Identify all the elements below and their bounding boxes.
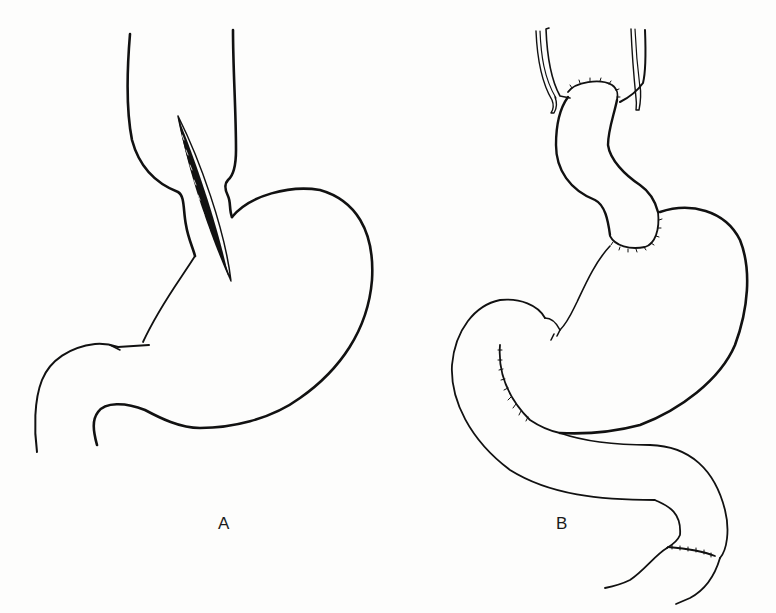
duodenum-upper-edge	[35, 344, 149, 452]
panel-a-drawing	[35, 30, 372, 452]
lower-suture-ticks	[611, 219, 662, 252]
left-tube-inner	[546, 28, 570, 98]
figure-canvas: A B	[0, 0, 776, 613]
angular-notch	[545, 318, 560, 340]
panel-label-a: A	[218, 515, 229, 532]
stomach-greater-curvature	[94, 189, 373, 445]
anatomical-diagram	[0, 0, 776, 613]
upper-anastomosis	[568, 81, 617, 100]
left-tube-mid	[540, 31, 556, 98]
distal-suture-ticks	[672, 545, 711, 557]
distal-anastomosis	[668, 547, 715, 556]
stomach-b-lesser-curvature	[560, 246, 610, 330]
jejunal-loop-inner	[500, 345, 728, 558]
panel-label-b: B	[556, 515, 567, 532]
right-tube-mid	[635, 29, 640, 88]
stomach-lesser-curvature	[143, 256, 195, 342]
loop-suture-ticks	[498, 350, 528, 421]
incision-shading	[178, 117, 229, 278]
panel-b-drawing	[452, 28, 747, 604]
distal-limb-left	[605, 548, 667, 588]
esophagus-right-wall	[225, 30, 236, 217]
conduit-left-wall	[556, 97, 610, 235]
conduit-right-wall	[608, 100, 658, 212]
distal-limb-right	[676, 558, 720, 604]
